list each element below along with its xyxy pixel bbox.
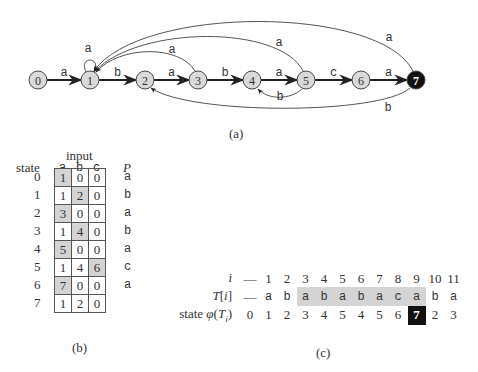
table-row: 100 (55, 169, 106, 187)
trace-t-9: a (408, 288, 426, 306)
cell-5-b: 4 (72, 259, 89, 277)
trace-i-5: 5 (334, 270, 352, 288)
trace-t-8: c (389, 288, 407, 306)
cell-5-c: 6 (89, 259, 106, 277)
state-label-4: 4 (249, 74, 255, 88)
state-label-5: 5 (303, 74, 309, 88)
transition-table: 100120300140500146700120 (54, 168, 106, 313)
trace-t-4: b (315, 288, 333, 306)
cell-1-a: 1 (55, 187, 72, 205)
cell-3-a: 1 (55, 223, 72, 241)
back-edge-7-1 (94, 22, 413, 72)
pattern-char: b (124, 224, 131, 238)
cell-7-c: 0 (89, 295, 106, 313)
state-label-1: 1 (87, 74, 93, 88)
trace-state-10: 2 (426, 306, 444, 324)
trace-t-1: a (260, 288, 278, 306)
trace-i-11: 11 (445, 270, 463, 288)
pattern-char: c (124, 260, 131, 274)
trace-i-4: 4 (315, 270, 333, 288)
cell-7-a: 1 (55, 295, 72, 313)
cell-4-c: 0 (89, 241, 106, 259)
trace-state-5: 5 (334, 306, 352, 324)
row-label-state: state φ(Ti) (179, 306, 232, 324)
trace-t-11: a (445, 288, 463, 306)
back-edge-label-5-1: a (275, 36, 282, 50)
pattern-char: a (124, 242, 131, 256)
state-row-label: 7 (34, 295, 41, 311)
state-row-label: 6 (34, 277, 41, 293)
trace-i-8: 8 (389, 270, 407, 288)
trace-i-9: 9 (408, 270, 426, 288)
cell-7-b: 2 (72, 295, 89, 313)
trace-state-0: 0 (241, 306, 259, 324)
back-edge-label-1-1: a (84, 42, 91, 56)
state-row-label: 2 (34, 205, 41, 221)
cell-6-a: 7 (55, 277, 72, 295)
back-edge-label-3-1: a (168, 43, 175, 57)
cell-0-b: 0 (72, 169, 89, 187)
table-row: 700 (55, 277, 106, 295)
trace-i-0: — (241, 270, 259, 288)
cell-0-c: 0 (89, 169, 106, 187)
trace-t-2: b (278, 288, 296, 306)
trace-state-6: 4 (352, 306, 370, 324)
table-row: 146 (55, 259, 106, 277)
trace-i-7: 7 (371, 270, 389, 288)
cell-1-c: 0 (89, 187, 106, 205)
trace-i-6: 6 (352, 270, 370, 288)
cell-3-c: 0 (89, 223, 106, 241)
trace-t-7: a (371, 288, 389, 306)
trace-i-10: 10 (426, 270, 444, 288)
cell-6-b: 0 (72, 277, 89, 295)
state-row-label: 4 (34, 241, 41, 257)
state-label-0: 0 (35, 74, 41, 88)
edge-label-4-5: a (275, 66, 282, 80)
state-label-2: 2 (142, 74, 148, 88)
row-label-text: T[i] (212, 288, 232, 304)
pattern-char: a (124, 278, 131, 292)
cell-2-c: 0 (89, 205, 106, 223)
state-label-3: 3 (195, 74, 201, 88)
state-row-label: 1 (34, 187, 41, 203)
table-row: 120 (55, 295, 106, 313)
trace-state-2: 2 (278, 306, 296, 324)
state-row-label: 3 (34, 223, 41, 239)
state-row-label: 0 (34, 169, 41, 185)
trace-i-3: 3 (297, 270, 315, 288)
cell-0-a: 1 (55, 169, 72, 187)
trace-state-8: 6 (389, 306, 407, 324)
trace-state-9: 7 (408, 306, 426, 324)
table-row: 140 (55, 223, 106, 241)
edge-label-3-4: b (221, 66, 228, 80)
edge-label-5-6: c (330, 66, 337, 80)
trace-t-10: b (426, 288, 444, 306)
row-label-i: i (228, 270, 232, 286)
caption-b: (b) (72, 340, 87, 356)
state-row-label: 5 (34, 259, 41, 275)
edge-label-2-3: a (168, 66, 175, 80)
trace-state-4: 4 (315, 306, 333, 324)
cell-4-a: 5 (55, 241, 72, 259)
table-row: 120 (55, 187, 106, 205)
state-label-7: 7 (413, 74, 419, 88)
pattern-char: a (124, 206, 131, 220)
trace-t-6: b (352, 288, 370, 306)
trace-state-3: 3 (297, 306, 315, 324)
trace-t-5: a (334, 288, 352, 306)
table-row: 300 (55, 205, 106, 223)
trace-state-1: 1 (260, 306, 278, 324)
trace-t-3: a (297, 288, 315, 306)
table-row: 500 (55, 241, 106, 259)
cell-1-b: 2 (72, 187, 89, 205)
caption-c: (c) (316, 345, 330, 361)
cell-5-a: 1 (55, 259, 72, 277)
back-edge-label-7-1: a (385, 31, 392, 45)
cell-3-b: 4 (72, 223, 89, 241)
pattern-char: b (124, 188, 131, 202)
back-edge-5-1 (95, 37, 303, 72)
cell-6-c: 0 (89, 277, 106, 295)
edge-label-0-1: a (60, 66, 67, 80)
edge-label-6-7: a (385, 66, 392, 80)
edge-label-1-2: b (114, 66, 121, 80)
